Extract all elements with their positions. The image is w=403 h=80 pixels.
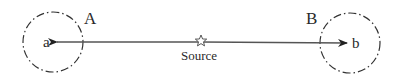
star-icon: [195, 35, 206, 46]
region-a: A a: [23, 9, 97, 72]
diagram-canvas: A a B b Source: [0, 0, 403, 80]
region-b: B b: [306, 9, 380, 73]
arrow-to-b: [201, 42, 347, 43]
region-a-label: A: [84, 9, 97, 28]
diagram-svg: A a B b Source: [0, 0, 403, 80]
point-a-label: a: [43, 34, 50, 50]
source-label: Source: [181, 48, 217, 63]
source: Source: [181, 35, 217, 63]
region-b-label: B: [306, 9, 317, 28]
point-b-label: b: [352, 35, 360, 51]
